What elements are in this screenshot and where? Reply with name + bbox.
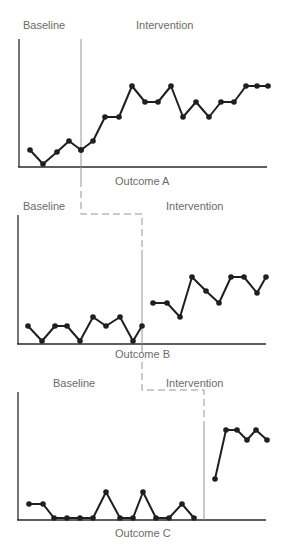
data-point-marker	[64, 515, 70, 521]
data-point-marker	[150, 300, 156, 306]
outcome-label-b: Outcome B	[115, 348, 170, 360]
data-point-marker	[40, 161, 46, 167]
phase-label-baseline-b: Baseline	[23, 200, 65, 212]
data-point-marker	[218, 99, 224, 105]
data-point-marker	[231, 99, 237, 105]
data-point-marker	[64, 323, 70, 329]
data-point-marker	[140, 489, 146, 495]
data-point-marker	[51, 515, 57, 521]
data-point-marker	[78, 147, 84, 153]
data-point-marker	[77, 515, 83, 521]
data-point-marker	[216, 300, 222, 306]
data-point-marker	[153, 515, 159, 521]
intervention-series-a	[81, 86, 268, 150]
data-point-marker	[253, 427, 259, 433]
baseline-markers-a	[27, 138, 84, 167]
data-point-marker	[39, 338, 45, 344]
baseline-series-c	[29, 492, 194, 518]
data-point-marker	[77, 338, 83, 344]
data-point-marker	[244, 437, 250, 443]
multiple-baseline-figure: Baseline Intervention Outcome A Baseline…	[0, 0, 283, 553]
data-point-marker	[54, 149, 60, 155]
data-point-marker	[234, 427, 240, 433]
phase-label-intervention-a: Intervention	[136, 19, 193, 31]
data-point-marker	[166, 515, 172, 521]
intervention-series-b	[153, 277, 266, 317]
data-point-marker	[103, 323, 109, 329]
data-point-marker	[228, 274, 234, 280]
data-point-marker	[191, 515, 197, 521]
baseline-series-b	[28, 317, 142, 341]
phase-connector-a-b	[81, 180, 142, 250]
data-point-marker	[212, 476, 218, 482]
data-point-marker	[241, 274, 247, 280]
data-point-marker	[26, 501, 32, 507]
phase-label-baseline-a: Baseline	[23, 19, 65, 31]
phase-label-intervention-b: Intervention	[166, 200, 223, 212]
data-point-marker	[254, 290, 260, 296]
data-point-marker	[254, 83, 260, 89]
data-point-marker	[203, 288, 209, 294]
data-point-marker	[52, 323, 58, 329]
data-point-marker	[27, 147, 33, 153]
data-point-marker	[90, 314, 96, 320]
data-point-marker	[90, 515, 96, 521]
data-point-marker	[168, 83, 174, 89]
data-point-marker	[177, 314, 183, 320]
data-point-marker	[25, 323, 31, 329]
figure-svg: Baseline Intervention Outcome A Baseline…	[0, 0, 283, 553]
data-point-marker	[117, 314, 123, 320]
data-point-marker	[206, 114, 212, 120]
phase-label-intervention-c: Intervention	[166, 377, 223, 389]
intervention-markers-b	[150, 274, 269, 320]
data-point-marker	[243, 83, 249, 89]
data-point-marker	[139, 323, 145, 329]
data-point-marker	[164, 300, 170, 306]
outcome-label-a: Outcome A	[115, 175, 170, 187]
data-point-marker	[130, 338, 136, 344]
phase-connector-b-c	[142, 362, 204, 425]
data-point-marker	[117, 515, 123, 521]
data-point-marker	[103, 489, 109, 495]
data-point-marker	[265, 83, 271, 89]
data-point-marker	[116, 114, 122, 120]
data-point-marker	[90, 138, 96, 144]
data-point-marker	[180, 114, 186, 120]
data-point-marker	[223, 427, 229, 433]
data-point-marker	[189, 274, 195, 280]
panel-outcome-b: Baseline Intervention Outcome B	[17, 200, 269, 360]
data-point-marker	[130, 515, 136, 521]
panel-outcome-a: Baseline Intervention Outcome A	[18, 19, 271, 187]
panel-outcome-c: Baseline Intervention Outcome C	[17, 377, 270, 539]
data-point-marker	[193, 99, 199, 105]
data-point-marker	[142, 99, 148, 105]
data-point-marker	[102, 114, 108, 120]
data-point-marker	[66, 138, 72, 144]
phase-label-baseline-c: Baseline	[53, 377, 95, 389]
data-point-marker	[129, 83, 135, 89]
outcome-label-c: Outcome C	[115, 527, 171, 539]
data-point-marker	[40, 501, 46, 507]
data-point-marker	[179, 501, 185, 507]
intervention-series-c	[215, 430, 267, 479]
data-point-marker	[264, 437, 270, 443]
data-point-marker	[155, 99, 161, 105]
data-point-marker	[263, 274, 269, 280]
